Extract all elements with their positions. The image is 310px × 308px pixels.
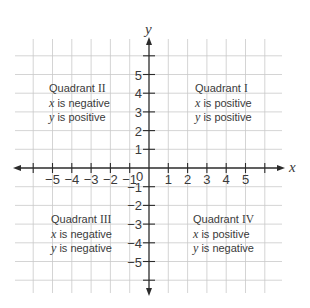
x-tick-label: −3 bbox=[84, 172, 99, 187]
x-tick-label: 3 bbox=[203, 172, 210, 187]
quadrant-y-sign: y is positive bbox=[194, 110, 252, 124]
y-tick-label: −2 bbox=[127, 198, 142, 213]
quadrant-y-sign: y is negative bbox=[50, 241, 112, 255]
x-axis-left-arrow-icon bbox=[13, 165, 21, 171]
quadrant-x-sign: x is positive bbox=[192, 227, 250, 241]
quadrant-x-sign: x is negative bbox=[48, 96, 110, 110]
x-tick-label: −5 bbox=[45, 172, 60, 187]
quadrant-iii-label: Quadrant IIIx is negativey is negative bbox=[50, 213, 112, 255]
x-tick-label: 1 bbox=[165, 172, 172, 187]
origin-label: 0 bbox=[136, 169, 143, 184]
y-axis bbox=[146, 37, 152, 296]
quadrant-x-sign: x is positive bbox=[194, 96, 252, 110]
x-tick-label: 5 bbox=[242, 172, 249, 187]
x-tick-label: 4 bbox=[223, 172, 230, 187]
y-tick-label: 1 bbox=[135, 142, 142, 157]
quadrant-y-sign: y is negative bbox=[192, 241, 254, 255]
y-axis-down-arrow-icon bbox=[146, 288, 152, 296]
y-axis-up-arrow-icon bbox=[146, 37, 152, 45]
quadrant-title: Quadrant III bbox=[51, 213, 112, 225]
quadrant-ii-label: Quadrant IIx is negativey is positive bbox=[48, 82, 110, 124]
y-tick-label: 4 bbox=[135, 86, 142, 101]
y-tick-label: −5 bbox=[127, 255, 142, 270]
y-tick-label: 3 bbox=[135, 105, 142, 120]
x-tick-label: −2 bbox=[103, 172, 118, 187]
y-tick-label: −3 bbox=[127, 217, 142, 232]
y-tick-label: 2 bbox=[135, 124, 142, 139]
quadrant-title: Quadrant IV bbox=[193, 213, 255, 225]
quadrant-x-sign: x is negative bbox=[50, 227, 112, 241]
quadrant-iv-label: Quadrant IVx is positivey is negative bbox=[192, 213, 255, 255]
quadrant-title: Quadrant I bbox=[195, 82, 248, 94]
y-tick-label: −4 bbox=[127, 236, 142, 251]
quadrant-y-sign: y is positive bbox=[48, 110, 106, 124]
quadrant-i-label: Quadrant Ix is positivey is positive bbox=[194, 82, 252, 124]
quadrant-title: Quadrant II bbox=[49, 82, 106, 94]
y-tick-label: 5 bbox=[135, 68, 142, 83]
coordinate-plane: −5−4−3−2−11234554321−1−2−3−4−5 x y 0 Qua… bbox=[0, 0, 310, 308]
y-axis-label: y bbox=[143, 21, 152, 37]
x-tick-label: 2 bbox=[184, 172, 191, 187]
x-axis-right-arrow-icon bbox=[277, 165, 285, 171]
x-tick-label: −4 bbox=[64, 172, 79, 187]
x-axis-label: x bbox=[288, 159, 296, 175]
